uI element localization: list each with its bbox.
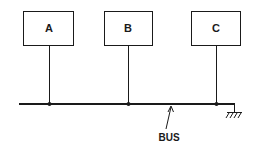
ground-icon: [226, 104, 242, 118]
node-b: B: [105, 12, 153, 107]
bus-label: BUS: [158, 132, 179, 143]
node-c: C: [192, 12, 241, 107]
bus-diagram: A B C BUS: [0, 0, 255, 149]
node-c-label: C: [212, 22, 220, 34]
node-a-label: A: [45, 22, 53, 34]
bus-arrow-icon: [166, 106, 174, 129]
node-b-label: B: [124, 22, 132, 34]
node-a: A: [24, 12, 74, 107]
